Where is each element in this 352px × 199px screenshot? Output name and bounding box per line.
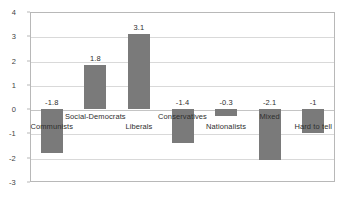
y-tick-label: 3 [0, 32, 16, 41]
bar-value-label: -1 [288, 98, 338, 107]
bar-value-label: 3.1 [114, 23, 164, 32]
bars-layer: -1.8Communists1.8Social-Democrats3.1Libe… [30, 12, 335, 182]
bar-value-label: 1.8 [70, 54, 120, 63]
y-tick-label: 4 [0, 8, 16, 17]
category-label: Liberals [94, 122, 184, 131]
bar-value-label: -2.1 [245, 98, 295, 107]
bar-value-label: -1.4 [158, 98, 208, 107]
category-label: Communists [7, 122, 97, 131]
y-tick-label: -2 [0, 153, 16, 162]
bar [84, 65, 106, 109]
bar [128, 34, 150, 109]
bar-chart: 43210-1-2-3 -1.8Communists1.8Social-Demo… [0, 0, 352, 199]
category-label: Mixed [225, 112, 315, 121]
y-tick-label: 2 [0, 56, 16, 65]
category-label: Social-Democrats [50, 112, 140, 121]
y-tick-label: -3 [0, 178, 16, 187]
category-label: Nationalists [181, 122, 271, 131]
bar-value-label: -1.8 [27, 98, 77, 107]
y-tick-label: 0 [0, 105, 16, 114]
bar-value-label: -0.3 [201, 98, 251, 107]
category-label: Hard to tell [268, 122, 352, 131]
y-tick-label: 1 [0, 80, 16, 89]
category-label: Conservatives [138, 112, 228, 121]
